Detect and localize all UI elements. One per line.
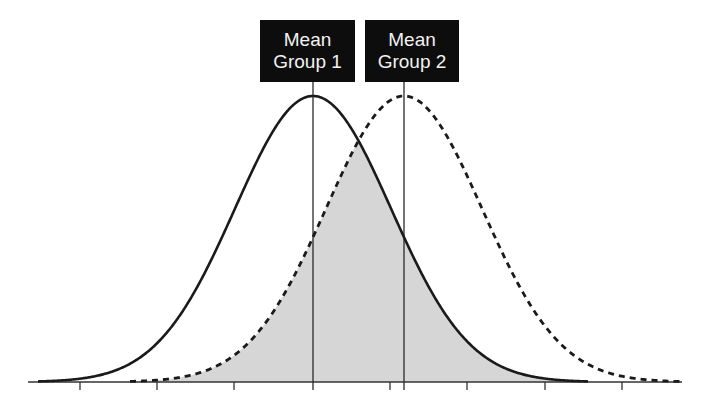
mean-group-2-label-line2: Group 2 xyxy=(365,51,459,73)
mean-group-2-label: Mean Group 2 xyxy=(365,20,459,82)
x-axis-ticks xyxy=(80,382,622,390)
mean-group-2-label-line1: Mean xyxy=(365,29,459,51)
overlap-area xyxy=(130,142,588,382)
mean-group-1-label: Mean Group 1 xyxy=(260,20,355,82)
mean-group-1-label-line2: Group 1 xyxy=(260,51,355,73)
mean-group-1-label-line1: Mean xyxy=(260,29,355,51)
